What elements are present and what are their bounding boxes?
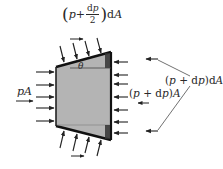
diagram-canvas: (p+dp2)dA θ pA (p + dp)A (p + dp)dA: [0, 0, 223, 169]
right-pressure-arrows: [114, 62, 128, 133]
side-label-p2: p: [198, 74, 205, 86]
top-label-numerator: dp: [86, 4, 100, 15]
left-force-label: pA: [17, 86, 32, 97]
side-label-close: )d: [205, 74, 216, 86]
top-label-plus: +: [76, 8, 85, 21]
top-label-num-p: p: [93, 3, 99, 13]
top-label-fraction: dp2: [86, 4, 100, 25]
side-force-label: (p + dp)dA: [165, 75, 223, 86]
top-label-p: p: [69, 8, 76, 21]
right-label-plus: + d: [140, 87, 162, 99]
right-force-label: (p + dp)A: [129, 88, 180, 99]
right-label-A: A: [173, 87, 181, 99]
right-label-p: p: [133, 87, 140, 99]
top-label-denominator: 2: [90, 15, 96, 25]
angle-theta-label: θ: [78, 62, 83, 71]
top-label-A: A: [114, 8, 122, 21]
side-label-A: A: [216, 74, 223, 86]
right-label-p2: p: [162, 87, 169, 99]
top-force-label: (p+dp2)dA: [62, 4, 122, 25]
side-label-p: p: [169, 74, 176, 86]
fluid-element: [56, 52, 111, 140]
side-label-plus: + d: [176, 74, 198, 86]
left-pressure-arrows: [36, 72, 54, 121]
top-label-lparen: (: [62, 4, 69, 24]
